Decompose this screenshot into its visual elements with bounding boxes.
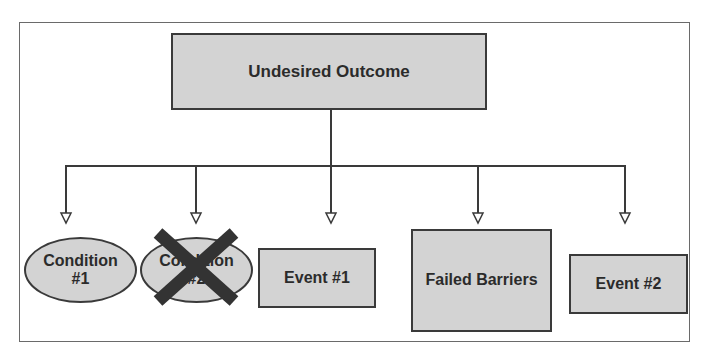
arrow-head-icon — [473, 213, 483, 223]
condition-1-line1: Condition — [43, 252, 118, 270]
event-2-label: Event #2 — [596, 275, 662, 293]
event-1-label: Event #1 — [284, 269, 350, 287]
failed-barriers-node: Failed Barriers — [411, 229, 552, 332]
cross-out-x-icon — [150, 227, 242, 307]
arrow-head-icon — [61, 213, 71, 223]
condition-1-line2: #1 — [72, 270, 90, 288]
top-event-undesired-outcome: Undesired Outcome — [171, 33, 487, 110]
arrow-head-icon — [191, 213, 201, 223]
fault-tree-diagram: Undesired Outcome Condition #1 Condition… — [0, 0, 706, 353]
top-event-label: Undesired Outcome — [248, 62, 410, 82]
arrow-head-icon — [326, 213, 336, 223]
condition-1-node: Condition #1 — [24, 237, 137, 303]
event-1-node: Event #1 — [258, 248, 376, 308]
failed-barriers-label: Failed Barriers — [425, 271, 537, 289]
event-2-node: Event #2 — [569, 254, 688, 314]
arrow-head-icon — [620, 213, 630, 223]
